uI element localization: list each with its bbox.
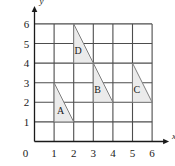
x-tick-label: 3 xyxy=(91,147,97,159)
triangle-label-b: B xyxy=(94,84,101,95)
origin-label: 0 xyxy=(23,147,29,159)
x-tick-label: 2 xyxy=(71,147,77,159)
triangle-label-c: C xyxy=(133,84,140,95)
x-tick-label: 4 xyxy=(110,147,116,159)
y-axis-label: y xyxy=(39,0,44,6)
y-tick-label: 5 xyxy=(24,38,30,50)
y-tick-label: 1 xyxy=(24,116,30,128)
axes xyxy=(32,6,169,144)
x-tick-label: 5 xyxy=(130,147,136,159)
plot-area: 0123456123456 ABCD xy xyxy=(0,0,175,166)
x-tick-label: 6 xyxy=(149,147,155,159)
coordinate-grid-figure: 0123456123456 ABCD xy xyxy=(0,0,175,166)
y-tick-label: 2 xyxy=(24,96,30,108)
triangles-group xyxy=(54,24,152,122)
y-tick-label: 6 xyxy=(24,18,30,30)
x-axis-arrow-icon xyxy=(163,139,169,145)
triangle-label-a: A xyxy=(57,105,65,116)
x-tick-label: 1 xyxy=(51,147,57,159)
y-axis-arrow-icon xyxy=(32,6,38,12)
y-tick-label: 4 xyxy=(24,57,30,69)
y-tick-label: 3 xyxy=(24,77,30,89)
x-axis-label: x xyxy=(171,131,175,141)
triangle-label-d: D xyxy=(74,45,81,56)
